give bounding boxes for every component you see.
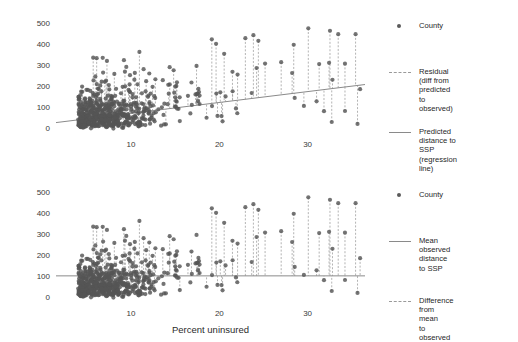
county-point-icon <box>397 24 401 28</box>
legend-key <box>388 189 412 201</box>
legend-item: County <box>388 189 443 201</box>
legend-label: Mean observed distance to SSP <box>419 235 450 273</box>
solid-line-icon <box>389 132 411 133</box>
panel-top: Miles to syringe program 010020030040050… <box>0 0 518 169</box>
legend-label: Residual (diff from predicted to observe… <box>419 66 453 113</box>
legend-key <box>388 66 412 78</box>
legend-label: County <box>419 189 443 199</box>
legend-item: County <box>388 20 443 32</box>
dashed-line-icon <box>389 301 411 302</box>
legend-item: Predicted distance to SSP (regression li… <box>388 126 457 173</box>
x-axis-label: Percent uninsured <box>56 324 365 335</box>
solid-line-icon <box>389 241 411 242</box>
legend-key <box>388 235 412 247</box>
legend-label: Difference from mean to observed <box>419 295 453 342</box>
data-points <box>76 195 362 299</box>
legend-label: County <box>419 20 443 30</box>
legend-item: Residual (diff from predicted to observe… <box>388 66 453 113</box>
county-point-icon <box>397 193 401 197</box>
legend-item: Mean observed distance to SSP <box>388 235 450 273</box>
legend-key <box>388 295 412 307</box>
data-points <box>76 26 362 130</box>
legend-item: Difference from mean to observed <box>388 295 453 342</box>
panel-bottom: Miles to syringe program 010020030040050… <box>0 169 518 338</box>
legend-key <box>388 20 412 32</box>
legend-label: Predicted distance to SSP (regression li… <box>419 126 457 173</box>
dashed-line-icon <box>389 72 411 73</box>
legend-key <box>388 126 412 138</box>
